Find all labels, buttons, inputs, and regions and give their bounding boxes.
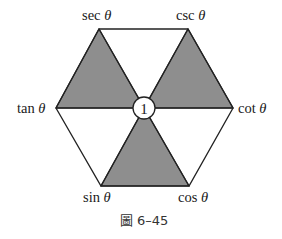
shaded-triangle-csc-cot xyxy=(144,29,233,108)
label-cot: cot θ xyxy=(238,100,266,116)
caption-prefix: 圖 xyxy=(120,213,133,228)
label-sec: sec θ xyxy=(82,7,111,23)
label-csc: csc θ xyxy=(176,7,205,23)
label-tan: tan θ xyxy=(17,100,45,116)
figure-caption: 圖 6–45 xyxy=(120,213,168,228)
caption-number: 6–45 xyxy=(137,213,168,228)
center-label: 1 xyxy=(140,101,148,117)
shaded-triangle-sin-cos xyxy=(101,108,189,186)
label-sin: sin θ xyxy=(83,189,111,205)
trig-hexagon-diagram: 1 sec θ csc θ cot θ cos θ sin θ tan θ 圖 … xyxy=(0,0,282,239)
shaded-triangle-sec-tan xyxy=(56,29,144,108)
label-cos: cos θ xyxy=(178,189,208,205)
